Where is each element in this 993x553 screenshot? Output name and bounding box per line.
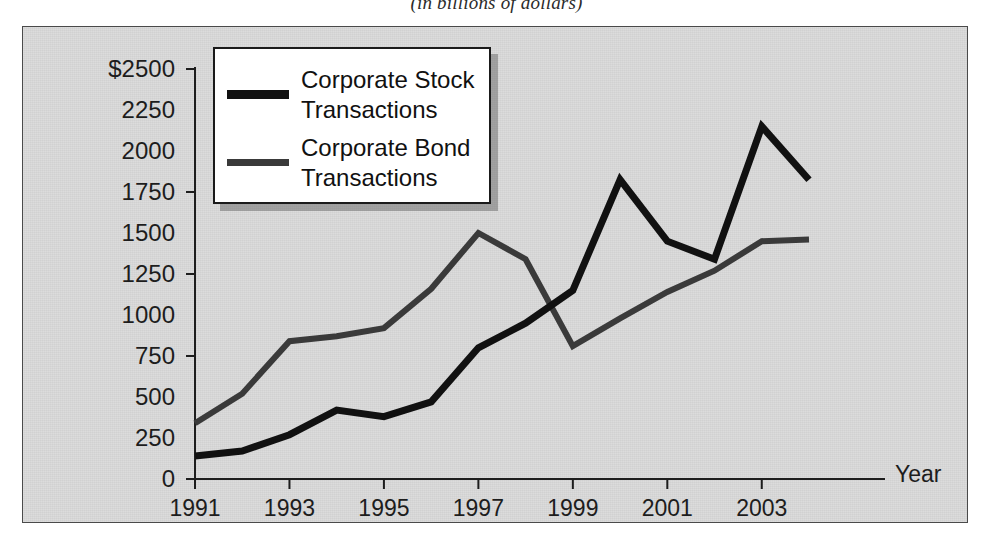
y-axis-tick-label: 1500 bbox=[65, 219, 175, 247]
x-axis-tick-label: 1991 bbox=[169, 495, 220, 522]
x-axis-tick-label: 1999 bbox=[547, 495, 598, 522]
y-axis-tick-label: 500 bbox=[65, 383, 175, 411]
plot-area: $250022502000175015001250100075050025001… bbox=[23, 27, 969, 524]
x-axis-tick-label: 2003 bbox=[736, 495, 787, 522]
y-axis-tick-label: $2500 bbox=[65, 55, 175, 83]
chart-legend[interactable]: Corporate Stock Transactions Corporate B… bbox=[213, 47, 491, 204]
legend-label-stock: Corporate Stock Transactions bbox=[301, 65, 474, 125]
chart-caption: (in billions of dollars) bbox=[0, 0, 993, 14]
y-axis-tick-label: 2250 bbox=[65, 96, 175, 124]
y-axis-tick-label: 2000 bbox=[65, 137, 175, 165]
chart-panel: $250022502000175015001250100075050025001… bbox=[22, 26, 968, 523]
legend-item-bond[interactable]: Corporate Bond Transactions bbox=[227, 133, 470, 193]
legend-item-stock[interactable]: Corporate Stock Transactions bbox=[227, 65, 474, 125]
y-axis-tick-label: 1750 bbox=[65, 178, 175, 206]
legend-label-bond: Corporate Bond Transactions bbox=[301, 133, 470, 193]
y-axis-tick-label: 250 bbox=[65, 424, 175, 452]
legend-swatch-bond-icon bbox=[227, 159, 289, 166]
y-axis-tick-label: 1250 bbox=[65, 260, 175, 288]
y-axis-tick-label: 1000 bbox=[65, 301, 175, 329]
y-axis-tick-label: 0 bbox=[65, 465, 175, 493]
y-axis-tick-label: 750 bbox=[65, 342, 175, 370]
x-axis-tick-label: 2001 bbox=[642, 495, 693, 522]
x-axis-tick-label: 1993 bbox=[264, 495, 315, 522]
x-axis-tick-label: 1997 bbox=[453, 495, 504, 522]
x-axis-title: Year bbox=[895, 461, 941, 488]
chart-page: (in billions of dollars) $25002250200017… bbox=[0, 0, 993, 553]
legend-swatch-stock-icon bbox=[227, 90, 289, 99]
x-axis-tick-label: 1995 bbox=[358, 495, 409, 522]
